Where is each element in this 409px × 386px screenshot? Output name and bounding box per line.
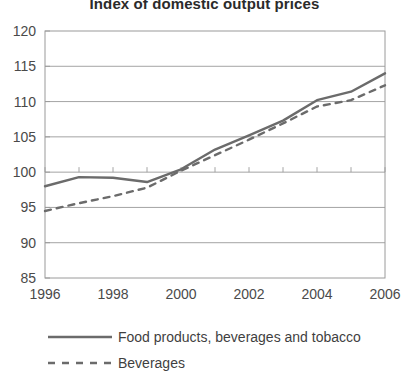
x-axis-label: 1996: [15, 287, 75, 301]
plot-svg: [0, 0, 409, 300]
plot-area: 1201151101051009590851996199820002002200…: [0, 0, 409, 300]
y-axis-label: 115: [2, 59, 36, 73]
chart-container: Index of domestic output prices 12011511…: [0, 0, 409, 386]
x-axis-label: 2006: [355, 287, 409, 301]
x-axis-label: 2000: [151, 287, 211, 301]
x-axis-label: 2004: [287, 287, 347, 301]
y-axis-label: 100: [2, 165, 36, 179]
legend-label-beverages: Beverages: [118, 355, 185, 371]
legend-key-solid-line: [46, 331, 118, 343]
y-axis-label: 95: [2, 200, 36, 214]
x-axis-label: 2002: [219, 287, 279, 301]
series-line-beverages: [45, 85, 385, 211]
chart-legend: Food products, beverages and tobacco Bev…: [0, 324, 409, 376]
legend-label-food-products: Food products, beverages and tobacco: [118, 329, 361, 345]
legend-item-food-products: Food products, beverages and tobacco: [0, 324, 409, 350]
legend-item-beverages: Beverages: [0, 350, 409, 376]
y-axis-label: 85: [2, 271, 36, 285]
y-axis-label: 105: [2, 130, 36, 144]
y-axis-label: 110: [2, 95, 36, 109]
x-axis-label: 1998: [83, 287, 143, 301]
y-axis-label: 120: [2, 24, 36, 38]
y-axis-label: 90: [2, 236, 36, 250]
legend-key-dashed-line: [46, 357, 118, 369]
